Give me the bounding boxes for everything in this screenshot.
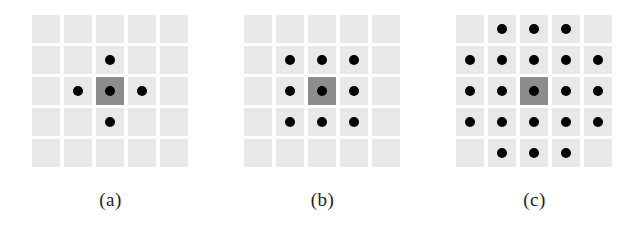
grid-cell (584, 46, 612, 74)
neighbor-dot-icon (317, 55, 327, 65)
caption-a: (a) (32, 189, 189, 211)
grid-cell (372, 46, 400, 74)
grid-cell (244, 108, 272, 136)
grid-cell (32, 15, 60, 43)
neighbor-dot-icon (497, 55, 507, 65)
panel-c: (c) (456, 15, 613, 215)
grid-cell (244, 15, 272, 43)
grid-cell (520, 15, 548, 43)
neighbor-dot-icon (593, 55, 603, 65)
neighbor-dot-icon (465, 117, 475, 127)
neighbor-dot-icon (105, 86, 115, 96)
panel-a: (a) (32, 15, 189, 215)
grid-cell (308, 46, 336, 74)
center-cell (96, 77, 124, 105)
grid-cell (372, 77, 400, 105)
grid-cell (584, 77, 612, 105)
neighbor-dot-icon (561, 148, 571, 158)
neighbor-dot-icon (497, 86, 507, 96)
center-cell (308, 77, 336, 105)
neighbor-dot-icon (105, 55, 115, 65)
grid-cell (64, 77, 92, 105)
neighbor-dot-icon (73, 86, 83, 96)
grid-cell (276, 46, 304, 74)
neighbor-dot-icon (349, 55, 359, 65)
grid-cell (160, 108, 188, 136)
grid-cell (276, 77, 304, 105)
grid-cell (552, 108, 580, 136)
grid-cell (552, 46, 580, 74)
neighbor-dot-icon (593, 117, 603, 127)
grid-cell (96, 15, 124, 43)
grid-cell (552, 77, 580, 105)
grid-a (32, 15, 189, 167)
grid-cell (372, 139, 400, 167)
grid-cell (372, 108, 400, 136)
grid-cell (96, 139, 124, 167)
panel-b: (b) (244, 15, 401, 215)
grid-cell (584, 15, 612, 43)
grid-cell (488, 77, 516, 105)
grid-cell (96, 108, 124, 136)
grid-cell (340, 108, 368, 136)
neighbor-dot-icon (529, 24, 539, 34)
center-cell (520, 77, 548, 105)
neighbor-dot-icon (349, 117, 359, 127)
grid-cell (64, 139, 92, 167)
grid-cell (96, 46, 124, 74)
neighbor-dot-icon (285, 86, 295, 96)
neighbor-dot-icon (529, 148, 539, 158)
caption-b: (b) (244, 189, 401, 211)
neighbor-dot-icon (465, 55, 475, 65)
neighbor-dot-icon (497, 24, 507, 34)
caption-c: (c) (456, 189, 613, 211)
grid-cell (244, 46, 272, 74)
neighbor-dot-icon (317, 86, 327, 96)
grid-cell (372, 15, 400, 43)
grid-cell (32, 77, 60, 105)
neighbor-dot-icon (285, 117, 295, 127)
grid-cell (552, 15, 580, 43)
neighbor-dot-icon (561, 117, 571, 127)
neighbor-dot-icon (497, 117, 507, 127)
grid-cell (160, 46, 188, 74)
grid-cell (128, 77, 156, 105)
grid-cell (308, 139, 336, 167)
grid-cell (128, 108, 156, 136)
grid-cell (520, 46, 548, 74)
grid-cell (64, 108, 92, 136)
grid-cell (456, 108, 484, 136)
neighbor-dot-icon (593, 86, 603, 96)
neighbor-dot-icon (465, 86, 475, 96)
grid-cell (128, 15, 156, 43)
grid-c (456, 15, 613, 167)
grid-cell (552, 139, 580, 167)
grid-cell (160, 77, 188, 105)
grid-cell (488, 15, 516, 43)
neighbor-dot-icon (529, 86, 539, 96)
neighbor-dot-icon (285, 55, 295, 65)
neighbor-dot-icon (529, 55, 539, 65)
grid-cell (32, 108, 60, 136)
grid-cell (520, 108, 548, 136)
grid-cell (244, 77, 272, 105)
grid-cell (488, 46, 516, 74)
neighbor-dot-icon (317, 117, 327, 127)
grid-cell (276, 139, 304, 167)
neighbor-dot-icon (137, 86, 147, 96)
grid-cell (488, 139, 516, 167)
neighbor-dot-icon (497, 148, 507, 158)
grid-b (244, 15, 401, 167)
grid-cell (488, 108, 516, 136)
neighbor-dot-icon (529, 117, 539, 127)
grid-cell (32, 139, 60, 167)
grid-cell (244, 139, 272, 167)
grid-cell (128, 46, 156, 74)
neighbor-dot-icon (105, 117, 115, 127)
grid-cell (32, 46, 60, 74)
grid-cell (276, 15, 304, 43)
grid-cell (456, 15, 484, 43)
grid-cell (308, 15, 336, 43)
grid-cell (456, 139, 484, 167)
grid-cell (456, 77, 484, 105)
